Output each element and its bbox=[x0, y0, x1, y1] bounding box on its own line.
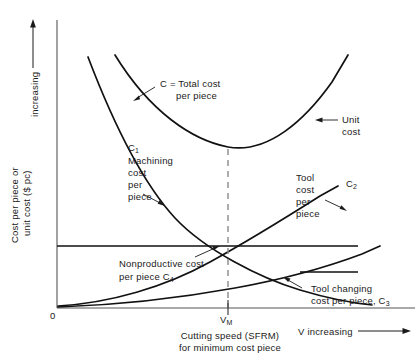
toolchanging-text: cost per piece, C bbox=[311, 295, 386, 306]
x-axis-direction-label: V increasing bbox=[298, 326, 353, 338]
origin-label: 0 bbox=[50, 310, 55, 322]
x-axis-title-line2: for minimum cost piece bbox=[150, 342, 310, 354]
annotation-machining-symbol: C1 bbox=[128, 142, 139, 156]
leader-tool-changing-cost bbox=[283, 277, 302, 288]
annotation-machining-line2: cost bbox=[128, 167, 146, 179]
leader-total-cost bbox=[133, 87, 155, 101]
annotation-machining-line1: Machining bbox=[128, 155, 173, 167]
c1-subscript: 1 bbox=[135, 147, 139, 154]
annotation-nonproductive-line1: Nonproductive cost bbox=[119, 258, 204, 270]
annotation-toolchanging-line2: cost per piece, C3 bbox=[311, 295, 390, 309]
y-axis-direction-label: increasing bbox=[29, 72, 41, 117]
annotation-c2-symbol: C2 bbox=[346, 178, 357, 192]
nonproductive-text: per piece C bbox=[119, 271, 170, 282]
annotation-toolchanging-line1: Tool changing bbox=[311, 283, 372, 295]
annotation-unit-cost-line1: Unit bbox=[342, 114, 360, 126]
y-axis-title-line2: unit cost ($ pc) bbox=[21, 170, 33, 236]
x-axis-title-line1: Cutting speed (SFRM) bbox=[150, 330, 310, 342]
vm-marker-label: VM bbox=[220, 314, 233, 328]
annotation-machining-line3: per bbox=[128, 179, 142, 191]
chart-figure: increasing Cost per piece or unit cost (… bbox=[0, 0, 420, 363]
leader-tool-cost bbox=[325, 200, 347, 211]
annotation-total-cost-line1: C = Total cost bbox=[160, 78, 220, 90]
annotation-tool-cost-line4: piece bbox=[296, 208, 320, 220]
annotation-tool-cost-line2: cost bbox=[296, 184, 314, 196]
c2-subscript: 2 bbox=[353, 183, 357, 190]
annotation-tool-cost-line3: per bbox=[296, 196, 310, 208]
vm-subscript: M bbox=[227, 319, 233, 326]
annotation-nonproductive-line2: per piece C4 bbox=[119, 271, 174, 285]
y-axis-title-line1: Cost per piece or bbox=[9, 167, 21, 243]
c4-subscript: 4 bbox=[170, 276, 174, 283]
curve-total-cost bbox=[115, 55, 348, 148]
c1-symbol: C bbox=[128, 142, 135, 153]
annotation-total-cost-line2: per piece bbox=[176, 90, 217, 102]
annotation-tool-cost-line1: Tool bbox=[296, 172, 314, 184]
leader-unit-cost bbox=[315, 117, 338, 122]
c3-subscript: 3 bbox=[386, 300, 390, 307]
c2-symbol: C bbox=[346, 178, 353, 189]
annotation-unit-cost-line2: cost bbox=[342, 126, 360, 138]
annotation-machining-line4: piece bbox=[128, 191, 152, 203]
y-increasing-arrow-icon bbox=[30, 19, 36, 68]
x-increasing-arrow-icon bbox=[358, 328, 411, 334]
